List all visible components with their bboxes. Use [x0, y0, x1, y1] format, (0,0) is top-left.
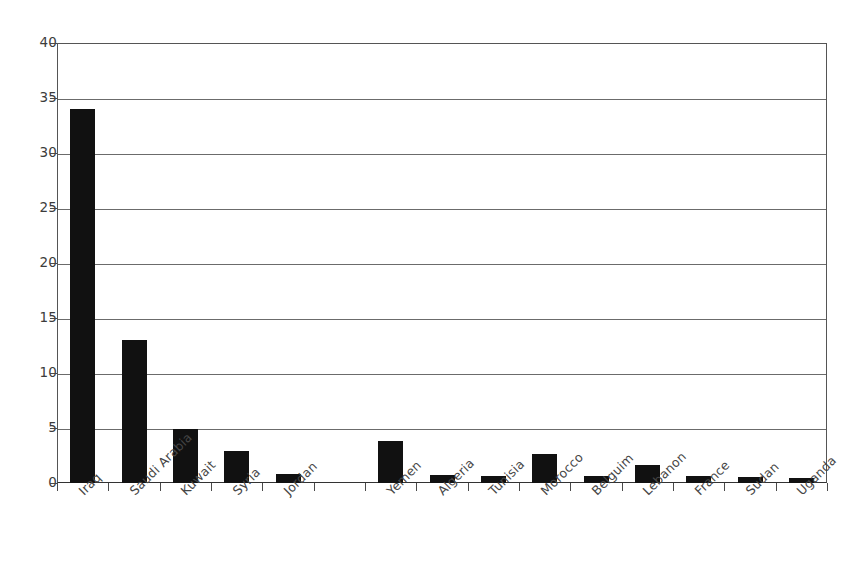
bar [70, 109, 95, 483]
y-axis-tick-mark [50, 318, 57, 319]
y-axis-tick-mark [50, 208, 57, 209]
y-axis-tick-mark [50, 263, 57, 264]
y-axis-tick-mark [50, 153, 57, 154]
x-axis-labels: IraqSaudi ArabiaKuwaitSyriaJordanYemenAl… [0, 483, 858, 586]
y-axis-tick-mark [50, 373, 57, 374]
y-axis-tick-mark [50, 428, 57, 429]
bar [122, 340, 147, 483]
y-axis-tick-mark [50, 98, 57, 99]
bars-layer [57, 43, 827, 483]
y-axis-tick-mark [50, 43, 57, 44]
bar-chart: 0510152025303540 IraqSaudi ArabiaKuwaitS… [0, 0, 858, 586]
